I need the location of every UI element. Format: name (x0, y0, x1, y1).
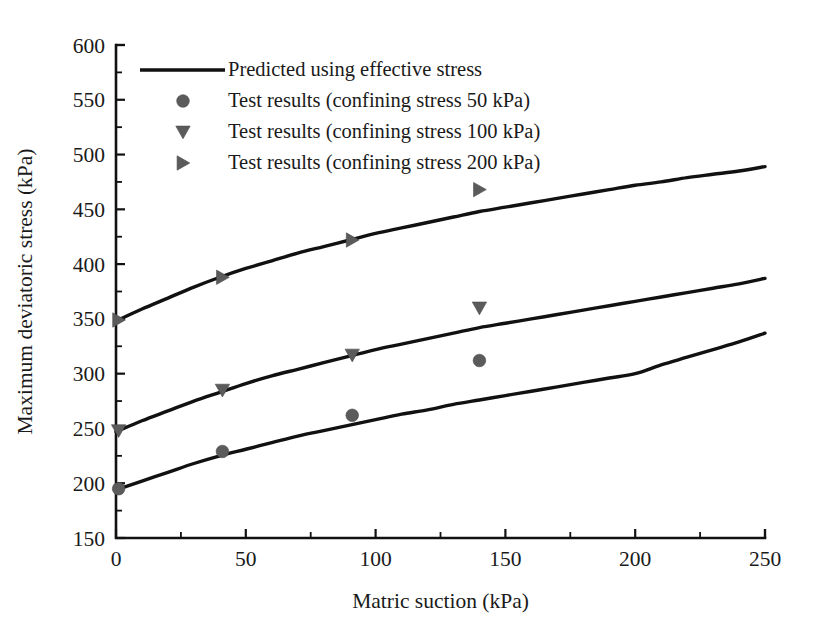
legend-marker-swatch (177, 156, 190, 170)
y-tick-label: 500 (73, 143, 105, 167)
x-tick-labels: 050100150200250 (111, 547, 782, 571)
data-point-marker (217, 270, 230, 284)
legend-marker-swatch (176, 126, 190, 139)
chart-figure: 150200250300350400450500550600 050100150… (0, 0, 818, 642)
y-tick-label: 600 (73, 34, 105, 58)
data-point-marker (474, 182, 487, 196)
legend-label: Test results (confining stress 100 kPa) (228, 120, 540, 143)
x-tick-label: 150 (489, 547, 521, 571)
data-point-marker (113, 313, 126, 327)
y-tick-label: 550 (73, 88, 105, 112)
x-axis-title: Matric suction (kPa) (352, 589, 529, 613)
x-tick-label: 250 (749, 547, 781, 571)
legend-marker-swatch (177, 95, 190, 108)
x-tick-label: 200 (619, 547, 651, 571)
data-point-marker (112, 482, 125, 495)
y-tick-label: 250 (73, 417, 105, 441)
y-axis-title: Maximum deviatoric stress (kPa) (13, 148, 37, 434)
data-point-marker (216, 445, 229, 458)
legend-label: Test results (confining stress 200 kPa) (228, 151, 540, 174)
y-tick-labels: 150200250300350400450500550600 (73, 34, 105, 551)
data-point-marker (346, 409, 359, 422)
y-tick-label: 350 (73, 307, 105, 331)
legend-label: Test results (confining stress 50 kPa) (228, 89, 530, 112)
chart-legend: Predicted using effective stressTest res… (140, 58, 540, 174)
y-tick-label: 150 (73, 527, 105, 551)
predicted-curve (116, 167, 765, 321)
x-tick-label: 100 (359, 547, 391, 571)
y-tick-label: 200 (73, 472, 105, 496)
legend-label: Predicted using effective stress (228, 58, 482, 81)
plot-area: 150200250300350400450500550600 050100150… (0, 0, 818, 642)
x-tick-label: 50 (235, 547, 257, 571)
x-tick-label: 0 (111, 547, 122, 571)
data-point-marker (472, 302, 486, 315)
y-tick-label: 450 (73, 198, 105, 222)
data-curves (116, 167, 765, 490)
predicted-curve (116, 333, 765, 490)
data-point-marker (473, 354, 486, 367)
data-point-marker (111, 425, 125, 438)
data-point-marker (346, 233, 359, 247)
y-tick-label: 400 (73, 253, 105, 277)
y-tick-label: 300 (73, 362, 105, 386)
